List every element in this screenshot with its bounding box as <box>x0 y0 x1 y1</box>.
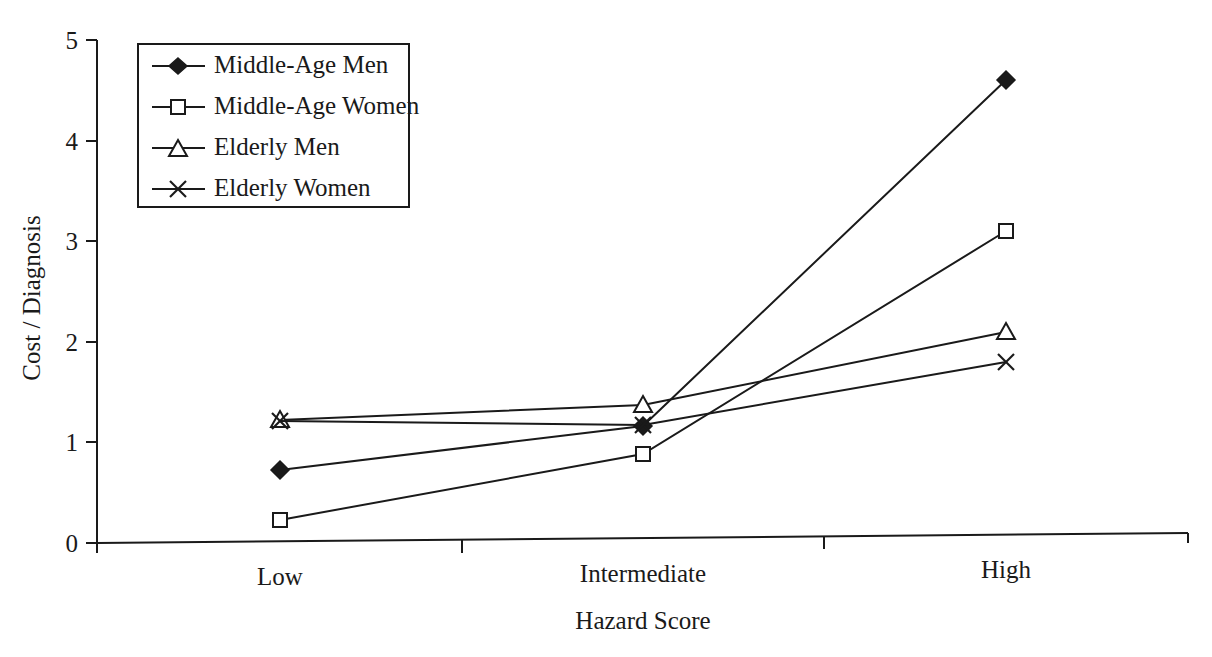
data-point-middle-age-men-low <box>271 461 289 479</box>
x-category-label-intermediate: Intermediate <box>580 560 706 587</box>
x-axis-line <box>97 533 1188 543</box>
y-tick-label-3: 3 <box>66 228 79 255</box>
y-tick-label-4: 4 <box>66 128 79 155</box>
legend-label-elderly-women: Elderly Women <box>214 174 371 201</box>
x-category-label-low: Low <box>257 563 303 590</box>
legend-label-elderly-men: Elderly Men <box>214 133 340 160</box>
y-axis-title: Cost / Diagnosis <box>18 215 45 380</box>
data-point-middle-age-women-high <box>999 224 1013 238</box>
y-axis: 5 4 3 2 1 0 Cost / Diagnosis <box>18 27 97 557</box>
series-middle-age-women <box>273 224 1013 527</box>
chart-page: 5 4 3 2 1 0 Cost / Diagnosis Low Interme… <box>0 0 1212 657</box>
data-point-middle-age-women-low <box>273 513 287 527</box>
legend-label-middle-age-women: Middle-Age Women <box>214 92 420 119</box>
line-chart: 5 4 3 2 1 0 Cost / Diagnosis Low Interme… <box>0 0 1212 657</box>
legend-label-middle-age-men: Middle-Age Men <box>214 51 389 78</box>
chart-legend: Middle-Age Men Middle-Age Women Elderly … <box>138 44 420 207</box>
y-tick-label-0: 0 <box>66 530 79 557</box>
y-tick-label-5: 5 <box>66 27 79 54</box>
x-axis-title: Hazard Score <box>575 607 710 634</box>
y-tick-label-2: 2 <box>66 329 79 356</box>
open-square-icon <box>171 100 185 114</box>
x-category-label-high: High <box>981 556 1032 583</box>
series-elderly-men <box>271 323 1015 427</box>
y-tick-label-1: 1 <box>66 429 79 456</box>
data-point-middle-age-women-intermediate <box>636 447 650 461</box>
series-line-middle-age-women <box>280 231 1006 520</box>
x-axis: Low Intermediate High Hazard Score <box>97 533 1188 634</box>
data-point-elderly-men-high <box>997 323 1015 339</box>
